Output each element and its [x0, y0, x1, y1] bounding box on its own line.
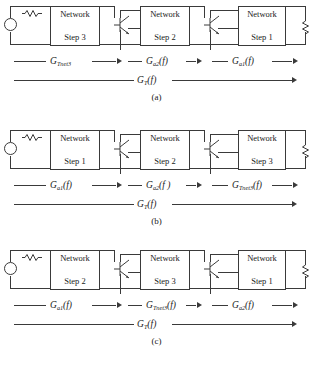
interstage-1-top-wire [100, 130, 114, 131]
source-left-wire-top [10, 130, 11, 142]
interstage-1-top-wire [100, 250, 114, 251]
stage-label-row: GTnet3Ga2(f)Ga1(f) [0, 52, 313, 70]
label-arrowhead-1 [117, 58, 122, 64]
source-left-wire-top [10, 6, 11, 18]
label-line-left [14, 305, 46, 306]
load-right-wire-top [305, 130, 306, 142]
load-bottom-wire [286, 168, 306, 169]
interstage-2-top-wire-2 [210, 10, 238, 11]
interstage-2-top-wire [190, 250, 204, 251]
label-arrowhead-3 [293, 58, 298, 64]
interstage-1-top-wire-2 [120, 10, 140, 11]
network-box-step: Step 1 [251, 277, 273, 286]
total-gain-row: GT(f) [0, 314, 313, 334]
source-bottom-wire [10, 168, 50, 169]
total-arrowhead [292, 201, 297, 207]
network-box-title: Network [150, 134, 180, 143]
network-box-step: Step 3 [154, 277, 176, 286]
total-line-left [14, 324, 134, 325]
network-box-step: Step 2 [154, 33, 176, 42]
label-arrowhead-3 [293, 302, 298, 308]
transistor-1 [114, 258, 132, 284]
network-box-3: NetworkStep 1 [238, 250, 286, 290]
network-box-1: NetworkStep 3 [50, 6, 100, 46]
total-gain-label: GT(f) [137, 315, 156, 334]
source-bottom-wire [10, 288, 50, 289]
load-resistor [302, 142, 309, 166]
stage-label-row: Ga1(f)GTnet3(f)Ga2(f) [0, 296, 313, 314]
label-line-right [272, 185, 292, 186]
network-box-3: NetworkStep 1 [238, 6, 286, 46]
interstage-2-top-wire-2 [210, 254, 238, 255]
label-arrowhead-2 [197, 58, 202, 64]
source-resistor [22, 247, 42, 265]
total-line-left [14, 204, 134, 205]
stage-gain-label-3: Ga2(f) [232, 296, 254, 315]
network-box-title: Network [150, 10, 180, 19]
source-resistor [22, 127, 42, 145]
total-arrowhead [292, 77, 297, 83]
stage-gain-label-1: Ga1(f) [50, 176, 72, 195]
label-arrowhead-3 [293, 182, 298, 188]
panel-caption-b: (b) [0, 214, 313, 228]
network-box-title: Network [247, 10, 277, 19]
label-line-right [272, 305, 292, 306]
label-line-left [14, 185, 46, 186]
circuit-diagram: NetworkStep 2NetworkStep 3NetworkStep 1 [0, 244, 313, 296]
interstage-2-bottom-wire [190, 44, 238, 45]
interstage-2-bottom-wire [190, 288, 238, 289]
label-line-right [92, 185, 116, 186]
network-box-title: Network [60, 134, 90, 143]
label-arrowhead-1 [117, 182, 122, 188]
total-gain-label: GT(f) [137, 71, 156, 90]
interstage-2-top-wire [190, 130, 204, 131]
load-right-wire-top [305, 6, 306, 18]
label-line-right [186, 185, 196, 186]
label-line-right [272, 61, 292, 62]
panel-c: NetworkStep 2NetworkStep 3NetworkStep 1G… [0, 244, 313, 374]
network-box-1: NetworkStep 2 [50, 250, 100, 290]
stage-label-row: Ga1(f)Ga2(f )GTnet3(f) [0, 176, 313, 194]
transistor-1 [114, 14, 132, 40]
label-line-left [14, 61, 46, 62]
label-line-right [186, 61, 196, 62]
stage-gain-label-1: Ga1(f) [50, 296, 72, 315]
label-line-left [128, 185, 142, 186]
interstage-2-bottom-wire [190, 168, 238, 169]
network-box-title: Network [247, 254, 277, 263]
label-line-right [186, 305, 196, 306]
load-bottom-wire [286, 44, 306, 45]
circuit-diagram: NetworkStep 1NetworkStep 2NetworkStep 3 [0, 124, 313, 176]
source-left-wire-top [10, 250, 11, 262]
label-arrowhead-2 [197, 302, 202, 308]
total-line-right [172, 204, 293, 205]
network-box-step: Step 2 [64, 277, 86, 286]
stage-gain-label-1: GTnet3 [50, 52, 71, 71]
network-box-title: Network [150, 254, 180, 263]
transistor-2 [204, 14, 222, 40]
interstage-2-top-wire-2 [210, 134, 238, 135]
interstage-2-top-wire [190, 6, 204, 7]
label-line-right [92, 305, 116, 306]
network-box-step: Step 3 [64, 33, 86, 42]
transistor-2 [204, 258, 222, 284]
label-line-left [212, 61, 228, 62]
label-line-left [212, 305, 228, 306]
load-resistor [302, 18, 309, 42]
source-left-wire-bottom [10, 276, 11, 288]
network-box-title: Network [60, 254, 90, 263]
source-symbol [4, 142, 17, 155]
load-bottom-wire [286, 288, 306, 289]
network-box-step: Step 2 [154, 157, 176, 166]
load-top-wire [286, 6, 306, 7]
figure-root: NetworkStep 3NetworkStep 2NetworkStep 1G… [0, 0, 313, 374]
network-box-title: Network [60, 10, 90, 19]
panel-a: NetworkStep 3NetworkStep 2NetworkStep 1G… [0, 0, 313, 124]
source-left-wire-bottom [10, 156, 11, 168]
stage-gain-label-2: GTnet3(f) [146, 296, 176, 315]
stage-gain-label-2: Ga2(f ) [146, 176, 170, 195]
label-arrowhead-2 [197, 182, 202, 188]
source-left-wire-bottom [10, 32, 11, 44]
source-symbol [4, 18, 17, 31]
total-line-right [172, 80, 293, 81]
